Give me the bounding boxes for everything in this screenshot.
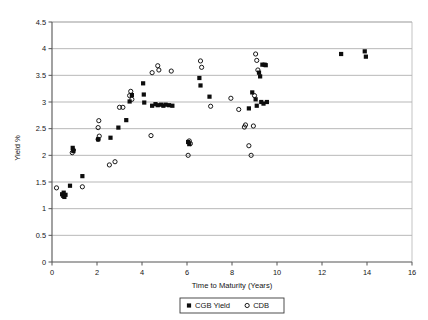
data-point-cgb-yield bbox=[364, 55, 368, 59]
y-axis-title: Yield % bbox=[13, 135, 22, 161]
x-tick-label: 0 bbox=[50, 268, 54, 277]
x-tick-label: 2 bbox=[95, 268, 99, 277]
y-tick-label: 4.5 bbox=[36, 18, 46, 27]
x-axis-ticks: 0246810121416 bbox=[50, 262, 416, 277]
data-point-cgb-yield bbox=[62, 191, 66, 195]
y-tick-label: 3 bbox=[42, 98, 46, 107]
x-tick-label: 6 bbox=[185, 268, 189, 277]
y-axis-ticks: 00.511.522.533.544.5 bbox=[36, 18, 52, 267]
chart-legend: CGB YieldCDB bbox=[180, 298, 284, 313]
data-point-cgb-yield bbox=[258, 74, 262, 78]
data-point-cdb bbox=[247, 144, 251, 148]
y-tick-label: 2.5 bbox=[36, 124, 46, 133]
data-point-cdb bbox=[150, 71, 154, 75]
data-point-cdb bbox=[237, 107, 241, 111]
data-point-cgb-yield bbox=[265, 100, 269, 104]
data-point-cgb-yield bbox=[142, 92, 146, 96]
data-point-cgb-yield bbox=[108, 136, 112, 140]
data-point-cdb bbox=[198, 59, 202, 63]
data-point-cgb-yield bbox=[197, 76, 201, 80]
x-axis-title: Time to Maturity (Years) bbox=[192, 281, 273, 290]
y-tick-label: 1.5 bbox=[36, 178, 46, 187]
data-point-cgb-yield bbox=[124, 118, 128, 122]
data-point-cdb bbox=[156, 64, 160, 68]
data-point-cdb bbox=[129, 89, 133, 93]
data-point-cgb-yield bbox=[142, 100, 146, 104]
data-point-cdb bbox=[107, 163, 111, 167]
data-point-cdb bbox=[255, 58, 259, 62]
y-tick-label: 3.5 bbox=[36, 71, 46, 80]
x-tick-label: 4 bbox=[140, 268, 144, 277]
gridlines bbox=[52, 22, 412, 235]
data-point-cdb bbox=[54, 186, 58, 190]
data-point-cgb-yield bbox=[116, 126, 120, 130]
y-tick-label: 4 bbox=[42, 44, 46, 53]
x-tick-label: 8 bbox=[230, 268, 234, 277]
data-point-cdb bbox=[113, 160, 117, 164]
data-point-cdb bbox=[169, 69, 173, 73]
data-point-cdb bbox=[80, 185, 84, 189]
data-point-cgb-yield bbox=[198, 83, 202, 87]
data-point-cdb bbox=[97, 119, 101, 123]
data-point-cdb bbox=[149, 134, 153, 138]
data-point-cgb-yield bbox=[264, 63, 268, 67]
data-point-cgb-yield bbox=[247, 106, 251, 110]
data-point-cgb-yield bbox=[68, 184, 72, 188]
data-point-cgb-yield bbox=[339, 52, 343, 56]
data-point-cdb bbox=[251, 124, 255, 128]
y-tick-label: 0 bbox=[42, 258, 46, 267]
legend-label-cgb-yield: CGB Yield bbox=[195, 301, 230, 310]
plot-frame bbox=[52, 22, 412, 262]
data-point-cdb bbox=[229, 96, 233, 100]
data-point-cdb bbox=[254, 52, 258, 56]
data-point-cgb-yield bbox=[255, 104, 259, 108]
data-point-cgb-yield bbox=[141, 81, 145, 85]
x-tick-label: 12 bbox=[318, 268, 326, 277]
data-point-cgb-yield bbox=[80, 174, 84, 178]
y-tick-label: 0.5 bbox=[36, 231, 46, 240]
scatter-chart: 00.511.522.533.544.5 0246810121416 Yield… bbox=[0, 0, 428, 320]
chart-canvas: 00.511.522.533.544.5 0246810121416 Yield… bbox=[0, 0, 428, 320]
data-points bbox=[54, 49, 368, 199]
y-tick-label: 1 bbox=[42, 204, 46, 213]
data-point-cgb-yield bbox=[207, 95, 211, 99]
data-point-cgb-yield bbox=[170, 104, 174, 108]
x-tick-label: 14 bbox=[363, 268, 371, 277]
data-point-cgb-yield bbox=[363, 49, 367, 53]
data-point-cdb bbox=[200, 65, 204, 69]
data-point-cdb bbox=[157, 68, 161, 72]
data-point-cdb bbox=[252, 94, 256, 98]
data-point-cdb bbox=[130, 97, 134, 101]
y-tick-label: 2 bbox=[42, 151, 46, 160]
data-point-cdb bbox=[96, 126, 100, 130]
x-tick-label: 10 bbox=[273, 268, 281, 277]
x-tick-label: 16 bbox=[408, 268, 416, 277]
legend-marker-cgb-yield bbox=[187, 303, 191, 307]
legend-label-cdb: CDB bbox=[253, 301, 269, 310]
data-point-cdb bbox=[209, 104, 213, 108]
